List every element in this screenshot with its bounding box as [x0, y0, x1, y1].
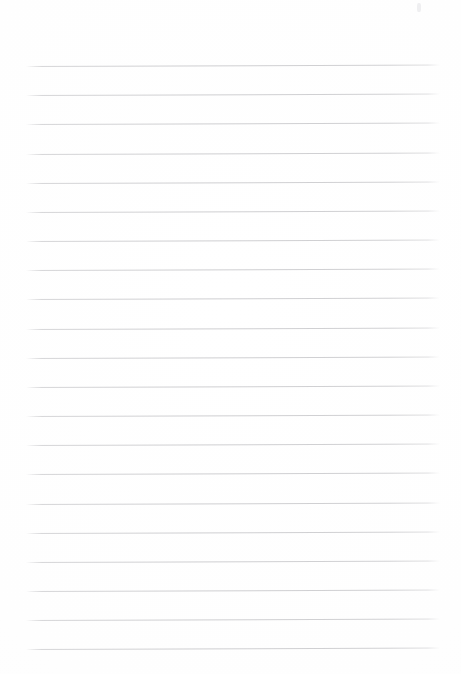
ruled-line: [26, 328, 440, 330]
ruled-line: [26, 269, 440, 271]
ruled-line: [26, 123, 440, 125]
ruled-line: [26, 182, 440, 184]
ruled-line: [26, 561, 440, 563]
ruled-line: [26, 386, 440, 388]
ruled-line: [26, 298, 440, 300]
ruled-line: [26, 65, 440, 67]
ruled-line: [26, 240, 440, 242]
ruled-line: [26, 590, 440, 592]
ruled-line: [26, 153, 440, 155]
ruled-line: [26, 648, 440, 650]
ruled-line: [26, 357, 440, 359]
scanner-speck-artifact: [417, 3, 421, 12]
ruled-line: [26, 532, 440, 534]
ruled-line: [26, 415, 440, 417]
ruled-line: [26, 619, 440, 621]
ruled-line: [26, 503, 440, 505]
ruled-line-layer: [0, 0, 461, 674]
ruled-line: [26, 473, 440, 475]
ruled-line: [26, 211, 440, 213]
lined-paper-page: [0, 0, 461, 674]
ruled-line: [26, 94, 440, 96]
ruled-line: [26, 444, 440, 446]
